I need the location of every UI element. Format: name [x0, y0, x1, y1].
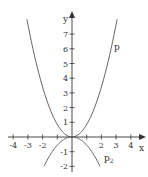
y-axis-label: y [62, 14, 69, 24]
x-tick-label: -4 [9, 141, 17, 150]
curve-label-p: p [114, 42, 120, 52]
x-axis-arrow-icon [139, 134, 146, 140]
y-tick-label: -2 [60, 162, 68, 171]
x-tick-label: -2 [39, 141, 47, 150]
y-tick-label: 6 [63, 45, 68, 54]
y-tick-label: 2 [63, 104, 68, 113]
y-tick-label: -1 [60, 148, 68, 157]
curve-label-p2: p2 [104, 153, 114, 164]
y-tick-label: 1 [63, 118, 68, 127]
parabola-chart: x y -4-3-2234 -2-11234567 p p2 [0, 0, 148, 177]
y-tick-label: 3 [63, 89, 68, 98]
x-tick-label: 2 [99, 141, 104, 150]
y-axis-arrow-icon [69, 11, 75, 18]
y-tick-label: 7 [63, 30, 68, 39]
x-tick-label: 3 [114, 141, 119, 150]
x-axis-label: x [139, 143, 144, 153]
x-tick-label: -3 [24, 141, 32, 150]
y-tick-label: 4 [63, 74, 68, 83]
y-tick-label: 5 [63, 60, 68, 69]
x-tick-label: 4 [128, 141, 133, 150]
